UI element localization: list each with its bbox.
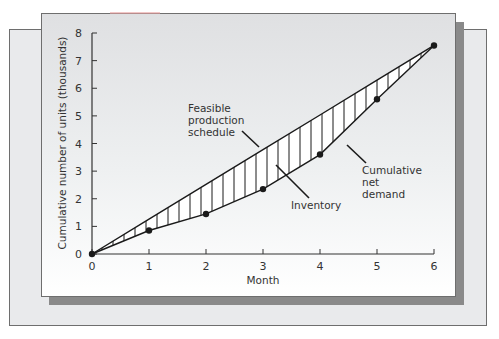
svg-text:net: net	[362, 176, 379, 188]
svg-text:Feasible: Feasible	[188, 102, 231, 114]
data-point-marker	[89, 251, 95, 257]
svg-text:production: production	[188, 114, 244, 126]
feasible-production-line	[92, 45, 434, 254]
data-point-marker	[203, 211, 209, 217]
y-tick-label: 4	[75, 138, 82, 151]
y-tick-label: 5	[75, 110, 82, 123]
x-tick-label: 5	[374, 260, 381, 273]
y-axis: 012345678	[75, 27, 97, 261]
svg-text:Cumulative: Cumulative	[362, 164, 422, 176]
y-tick-label: 7	[75, 55, 82, 68]
y-tick-label: 2	[75, 193, 82, 206]
y-tick-label: 6	[75, 82, 82, 95]
svg-text:schedule: schedule	[188, 126, 235, 138]
inventory-region	[92, 28, 434, 259]
data-point-marker	[146, 227, 152, 233]
x-tick-label: 6	[431, 260, 438, 273]
x-tick-label: 1	[146, 260, 153, 273]
y-tick-label: 0	[75, 248, 82, 261]
x-tick-label: 3	[260, 260, 267, 273]
y-tick-label: 3	[75, 165, 82, 178]
y-tick-label: 8	[75, 27, 82, 40]
annotation-demand: Cumulative net demand	[347, 145, 422, 200]
y-tick-label: 1	[75, 220, 82, 233]
x-axis: 0123456	[89, 249, 438, 273]
x-tick-label: 2	[203, 260, 210, 273]
data-point-marker	[260, 186, 266, 192]
y-axis-title: Cumulative number of units (thousands)	[56, 37, 68, 250]
svg-text:Inventory: Inventory	[291, 199, 341, 211]
x-tick-label: 4	[317, 260, 324, 273]
data-point-marker	[431, 42, 437, 48]
annotation-feasible: Feasible production schedule	[188, 102, 259, 147]
data-point-marker	[317, 151, 323, 157]
data-point-marker	[374, 96, 380, 102]
chart: 012345678 0123456 Month Cumulative numbe…	[0, 0, 499, 339]
svg-text:demand: demand	[362, 188, 405, 200]
x-tick-label: 0	[89, 260, 96, 273]
x-axis-title: Month	[247, 274, 280, 286]
